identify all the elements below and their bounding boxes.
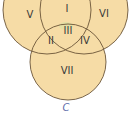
region-label-iii: III [64, 25, 73, 36]
venn-diagram: V I VI II III IV VII C [0, 0, 131, 117]
region-label-ii: II [48, 35, 54, 46]
region-label-i: I [66, 3, 69, 14]
set-label-c: C [63, 102, 70, 113]
region-label-v: V [27, 9, 34, 20]
region-label-iv: IV [80, 35, 90, 46]
region-label-vi: VI [99, 8, 109, 19]
region-label-vii: VII [61, 65, 74, 76]
